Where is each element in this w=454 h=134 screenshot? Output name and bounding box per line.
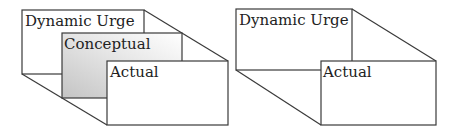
layer-diagrams: Dynamic Urge Conceptual Actual Dynamic U… [0, 0, 454, 134]
dynamic-urge-label: Dynamic Urge [25, 12, 135, 30]
actual-label: Actual [322, 63, 372, 81]
top-right-diagonal [352, 9, 436, 61]
bottom-left-diagonal [236, 70, 321, 125]
conceptual-label: Conceptual [64, 35, 151, 53]
three-layer-diagram: Dynamic Urge Conceptual Actual [22, 10, 228, 125]
two-layer-diagram: Dynamic Urge Actual [236, 9, 436, 125]
dynamic-urge-label: Dynamic Urge [239, 11, 349, 29]
actual-label: Actual [109, 63, 159, 81]
